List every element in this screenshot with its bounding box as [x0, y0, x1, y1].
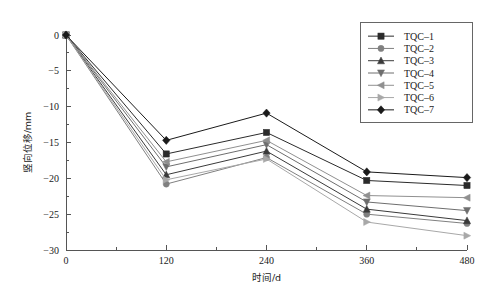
legend-label: TQC–3 [404, 55, 434, 66]
data-point-square [464, 182, 470, 188]
data-point-square [364, 177, 370, 183]
data-point-square [263, 129, 269, 135]
y-tick-label: −15 [43, 137, 59, 148]
line-chart: 0−5−10−15−20−25−300120240360480时间/d竖向位移/… [0, 0, 491, 285]
legend-label: TQC–6 [404, 92, 434, 103]
data-point-triangle-right [464, 232, 471, 239]
data-point-circle [378, 45, 384, 51]
legend-label: TQC–1 [404, 31, 434, 42]
x-tick-label: 120 [159, 255, 174, 266]
data-point-triangle-up [363, 205, 370, 212]
data-point-triangle-right [364, 219, 371, 226]
legend-label: TQC–5 [404, 80, 434, 91]
data-point-diamond [363, 168, 370, 176]
x-tick-label: 0 [64, 255, 69, 266]
data-point-triangle-down [464, 207, 471, 214]
y-tick-label: −25 [43, 209, 59, 220]
y-axis-title: 竖向位移/mm [22, 112, 33, 174]
legend-label: TQC–2 [404, 43, 434, 54]
y-tick-label: −20 [43, 173, 59, 184]
y-axis-ticks: 0−5−10−15−20−25−30 [43, 30, 71, 256]
legend-label: TQC–4 [404, 68, 434, 79]
legend-label: TQC–7 [404, 104, 434, 115]
data-point-diamond [263, 109, 270, 117]
x-axis-ticks: 0120240360480 [64, 245, 475, 266]
x-tick-label: 480 [460, 255, 475, 266]
data-point-diamond [463, 174, 470, 182]
y-tick-label: 0 [54, 30, 59, 41]
x-tick-label: 360 [359, 255, 374, 266]
y-tick-label: −10 [43, 101, 59, 112]
data-point-triangle-left [463, 194, 470, 201]
legend: TQC–1TQC–2TQC–3TQC–4TQC–5TQC–6TQC–7 [360, 22, 472, 122]
y-tick-label: −30 [43, 245, 59, 256]
data-point-square [378, 33, 384, 39]
x-tick-label: 240 [259, 255, 274, 266]
data-point-triangle-left [363, 192, 370, 199]
x-axis-title: 时间/d [252, 272, 281, 283]
chart-figure: 0−5−10−15−20−25−300120240360480时间/d竖向位移/… [0, 0, 491, 285]
y-tick-label: −5 [48, 65, 59, 76]
data-point-square [163, 151, 169, 157]
